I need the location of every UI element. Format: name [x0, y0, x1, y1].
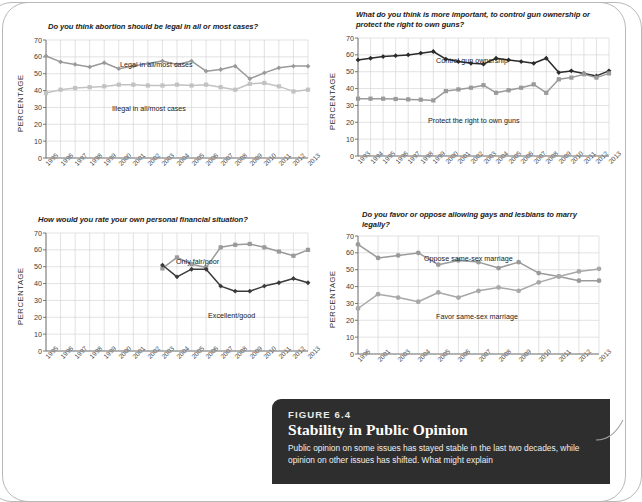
chart-svg-finance: [8, 229, 318, 389]
figure-number: FIGURE 6.4: [288, 409, 594, 420]
chart-panel-guns: What do you think is more important, to …: [318, 10, 623, 197]
chart-title-abortion: Do you think abortion should be legal in…: [48, 22, 313, 32]
chart-panel-abortion: Do you think abortion should be legal in…: [8, 22, 318, 197]
plot-area-abortion: PERCENTAGE706050403020100199519961997199…: [8, 36, 318, 196]
series-label: Oppose same-sex marriage: [424, 254, 513, 263]
series-label: Legal in all/most cases: [120, 60, 193, 69]
series-label: Favor same-sex marriage: [436, 312, 518, 321]
chart-panel-finance: How would you rate your own personal fin…: [8, 215, 318, 390]
figure-title: Stability in Public Opinion: [288, 421, 594, 439]
figure-caption-box: FIGURE 6.4 Stability in Public Opinion P…: [272, 399, 610, 484]
series-label: Illegal in all/most cases: [112, 104, 186, 113]
series-label: Protect the right to own guns: [428, 116, 520, 125]
series-label: Control gun ownership: [436, 56, 508, 65]
figure-description: Public opinion on some issues has stayed…: [288, 443, 594, 466]
chart-title-marriage: Do you favor or oppose allowing gays and…: [362, 210, 592, 230]
plot-area-guns: PERCENTAGE706050403020100199319941995199…: [318, 34, 623, 194]
plot-area-marriage: PERCENTAGE706050403020100199620012003200…: [318, 232, 623, 392]
chart-title-guns: What do you think is more important, to …: [356, 10, 606, 30]
plot-area-finance: PERCENTAGE706050403020100199519961997199…: [8, 229, 318, 389]
chart-title-finance: How would you rate your own personal fin…: [38, 215, 318, 225]
series-label: Excellent/good: [208, 311, 255, 320]
series-label: Only fair/poor: [176, 257, 219, 266]
chart-panel-marriage: Do you favor or oppose allowing gays and…: [318, 210, 623, 390]
